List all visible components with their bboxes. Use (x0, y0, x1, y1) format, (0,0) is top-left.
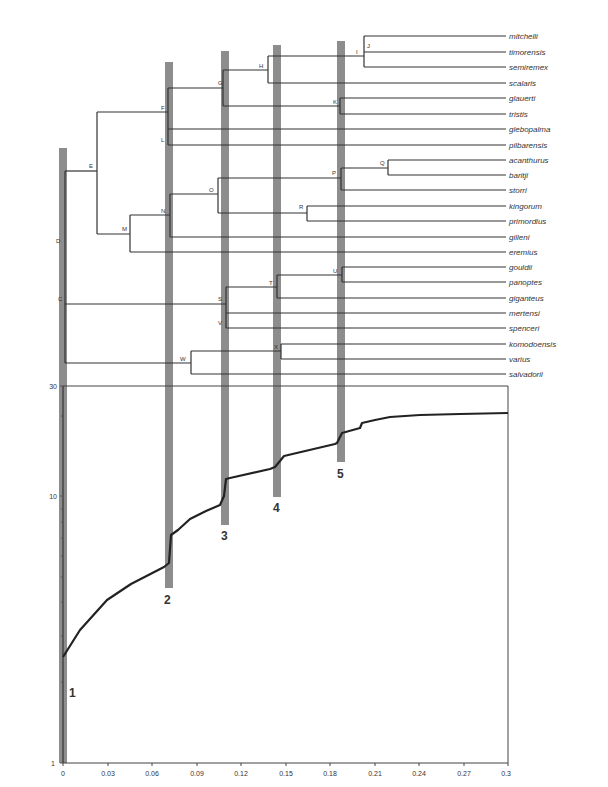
x-tick-label: 0.18 (323, 770, 337, 777)
tip-label: timorensis (509, 48, 545, 57)
tip-label: panoptes (508, 278, 542, 287)
node-label-s: S (218, 296, 222, 302)
tip-label: mitchelli (509, 32, 538, 41)
tip-label: gilleni (509, 233, 530, 242)
x-tick-label: 0.3 (501, 770, 511, 777)
bar-label-1: 1 (69, 686, 76, 700)
tip-label: primordius (508, 217, 546, 226)
bar-label-3: 3 (221, 529, 228, 543)
tip-label: scalaris (509, 79, 536, 88)
node-label-t: T (269, 280, 273, 286)
tip-labels: mitchelli timorensis semiremex scalaris … (508, 32, 556, 379)
tip-label: glebopalma (509, 125, 551, 134)
tip-label: komodoensis (509, 340, 556, 349)
x-tick-labels: 0 0.03 0.06 0.09 0.12 0.15 0.18 0.21 0.2… (61, 770, 511, 777)
tip-label: spenceri (509, 324, 539, 333)
node-label-l: L (161, 137, 165, 143)
highlight-bar-4 (273, 45, 281, 497)
x-tick-label: 0.09 (190, 770, 204, 777)
x-tick-label: 0.12 (234, 770, 248, 777)
tip-label: baritji (509, 171, 528, 180)
node-label-r: R (299, 204, 304, 210)
node-label-q: Q (380, 160, 385, 166)
y-tick-label-1: 1 (51, 760, 55, 767)
tip-label: semiremex (509, 63, 549, 72)
node-label-h: H (259, 63, 263, 69)
tip-label: giganteus (509, 294, 544, 303)
tip-label: gouldii (509, 263, 532, 272)
x-tick-label: 0.27 (457, 770, 471, 777)
bar-label-5: 5 (337, 467, 344, 481)
y-tick-label-30: 30 (49, 383, 57, 390)
figure: C D E F G H I J K L M N O P Q R S T U V … (0, 0, 608, 787)
bar-label-4: 4 (273, 501, 280, 515)
node-label-e: E (89, 163, 93, 169)
node-label-o: O (209, 187, 214, 193)
phylogenetic-tree (65, 36, 506, 374)
tip-label: tristis (509, 110, 528, 119)
node-label-g: G (218, 80, 223, 86)
highlight-bar-2 (165, 62, 173, 588)
tip-label: acanthurus (509, 156, 549, 165)
node-label-f: F (161, 105, 165, 111)
node-label-c: C (58, 296, 63, 302)
node-label-x: X (274, 344, 278, 350)
node-labels: C D E F G H I J K L M N O P Q R S T U V … (56, 43, 385, 362)
x-tick-label: 0.24 (412, 770, 426, 777)
tip-label: varius (509, 355, 530, 364)
y-tick-label-10: 10 (49, 493, 57, 500)
node-label-n: N (161, 208, 165, 214)
node-label-i: I (356, 49, 358, 55)
tip-label: mertensi (509, 309, 540, 318)
highlight-bar-3 (221, 51, 229, 525)
node-label-k: K (333, 99, 337, 105)
tip-label: pilbarensis (508, 141, 547, 150)
x-tick-label: 0.15 (279, 770, 293, 777)
tip-label: glauerti (509, 94, 535, 103)
tip-label: eremius (509, 248, 537, 257)
node-label-p: P (332, 170, 336, 176)
tip-label: salvadorii (509, 370, 543, 379)
node-label-j: J (367, 43, 370, 49)
lineages-through-time-line (63, 413, 508, 657)
x-tick-label: 0.06 (145, 770, 159, 777)
x-tick-label: 0.21 (368, 770, 382, 777)
x-tick-label: 0.03 (101, 770, 115, 777)
highlight-bars (59, 41, 345, 763)
node-label-v: V (218, 320, 222, 326)
bar-label-2: 2 (164, 593, 171, 607)
node-label-w: W (180, 356, 186, 362)
tip-label: storri (509, 186, 527, 195)
node-label-d: D (56, 238, 61, 244)
x-tick-label: 0 (61, 770, 65, 777)
node-label-u: U (333, 268, 337, 274)
tip-label: kingorum (509, 202, 542, 211)
node-label-m: M (122, 226, 127, 232)
